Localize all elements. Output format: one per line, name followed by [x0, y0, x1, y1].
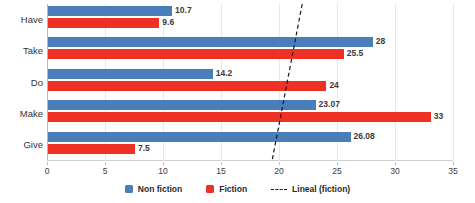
- legend-dash-icon: [271, 189, 287, 190]
- tick-label: 25: [332, 166, 341, 176]
- tick-mark: [337, 162, 338, 165]
- bar-value-label: 24: [329, 80, 338, 90]
- legend-label-fiction: Fiction: [219, 184, 247, 194]
- bar-group: 14.224: [47, 67, 453, 98]
- legend-swatch-non-fiction: [125, 185, 133, 193]
- bar-value-label: 26.08: [354, 131, 375, 141]
- bar-nonfiction[interactable]: [48, 100, 316, 110]
- bar-nonfiction[interactable]: [48, 37, 373, 47]
- bar-value-label: 33: [434, 111, 443, 121]
- category-label: Do: [1, 77, 43, 88]
- bar-nonfiction[interactable]: [48, 69, 213, 79]
- bar-fiction[interactable]: [48, 18, 159, 28]
- chart-legend: Non fiction Fiction Lineal (fiction): [0, 181, 475, 197]
- legend-item-non-fiction[interactable]: Non fiction: [125, 184, 182, 194]
- legend-label-trendline: Lineal (fiction): [292, 184, 350, 194]
- tick-mark: [105, 162, 106, 165]
- bar-value-label: 9.6: [162, 17, 174, 27]
- bar-nonfiction[interactable]: [48, 132, 351, 142]
- bar-nonfiction[interactable]: [48, 6, 172, 16]
- tick-mark: [221, 162, 222, 165]
- category-label: Have: [1, 14, 43, 25]
- bar-value-label: 25.5: [347, 48, 364, 58]
- bar-value-label: 10.7: [175, 5, 192, 15]
- category-label: Give: [1, 139, 43, 150]
- legend-item-trendline[interactable]: Lineal (fiction): [271, 184, 350, 194]
- bar-value-label: 7.5: [138, 143, 150, 153]
- bar-value-label: 28: [376, 36, 385, 46]
- bar-fiction[interactable]: [48, 49, 344, 59]
- bar-fiction[interactable]: [48, 144, 135, 154]
- legend-item-fiction[interactable]: Fiction: [206, 184, 247, 194]
- tick-label: 15: [216, 166, 225, 176]
- tick-label: 5: [103, 166, 108, 176]
- legend-label-non-fiction: Non fiction: [138, 184, 182, 194]
- category-label: Take: [1, 45, 43, 56]
- bar-value-label: 14.2: [216, 68, 233, 78]
- bar-fiction[interactable]: [48, 81, 326, 91]
- bar-value-label: 23.07: [319, 99, 340, 109]
- category-label: Make: [1, 108, 43, 119]
- bar-group: 10.79.6: [47, 4, 453, 35]
- bar-chart: HaveTakeDoMakeGive 10.79.62825.514.22423…: [0, 0, 475, 203]
- tick-mark: [395, 162, 396, 165]
- bar-group: 23.0733: [47, 98, 453, 129]
- tick-label: 0: [45, 166, 50, 176]
- tick-mark: [47, 162, 48, 165]
- bar-group: 2825.5: [47, 35, 453, 66]
- tick-mark: [453, 162, 454, 165]
- category-axis: HaveTakeDoMakeGive: [0, 4, 43, 161]
- tick-mark: [279, 162, 280, 165]
- legend-swatch-fiction: [206, 185, 214, 193]
- value-axis: 05101520253035: [47, 162, 453, 178]
- bar-fiction[interactable]: [48, 112, 431, 122]
- tick-label: 30: [390, 166, 399, 176]
- tick-label: 20: [274, 166, 283, 176]
- bar-group: 26.087.5: [47, 130, 453, 161]
- gridline: [453, 4, 454, 161]
- tick-label: 10: [158, 166, 167, 176]
- plot-area: 10.79.62825.514.22423.073326.087.5: [47, 4, 453, 161]
- tick-mark: [163, 162, 164, 165]
- tick-label: 35: [448, 166, 457, 176]
